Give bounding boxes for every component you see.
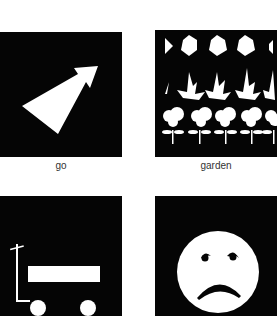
label-go: go: [0, 160, 122, 171]
card-garden[interactable]: [155, 30, 277, 157]
garden-plants-icon: [155, 30, 277, 157]
card-sad[interactable]: [155, 196, 277, 316]
sad-face-icon: [155, 196, 277, 316]
card-wagon[interactable]: [0, 196, 122, 316]
label-garden: garden: [155, 160, 277, 171]
card-go[interactable]: [0, 32, 122, 157]
wagon-icon: [0, 196, 122, 316]
arrow-up-right-icon: [0, 32, 122, 157]
